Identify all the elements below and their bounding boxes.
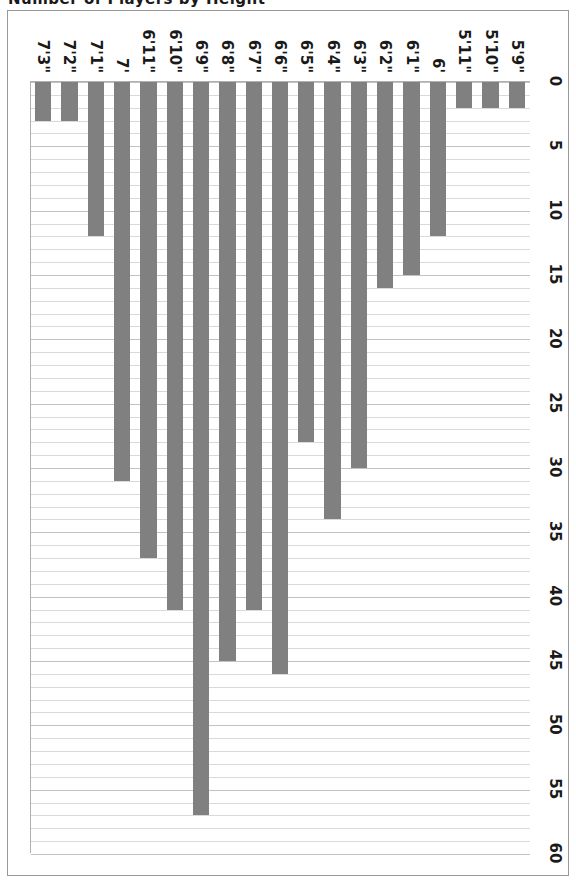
bar xyxy=(246,82,262,610)
value-tick-label: 5 xyxy=(546,140,564,150)
value-tick-label: 55 xyxy=(546,778,564,799)
category-tick-label: 6'11" xyxy=(139,29,157,73)
value-axis: 051015202530354045505560 xyxy=(530,81,568,853)
bar xyxy=(351,82,367,468)
category-axis: 5'9"5'10"5'11"6'6'1"6'2"6'3"6'4"6'5"6'6"… xyxy=(30,11,530,79)
value-tick-label: 0 xyxy=(546,76,564,86)
category-tick-label: 6'2" xyxy=(376,40,394,73)
category-tick-label: 6'1" xyxy=(403,40,421,73)
category-tick-label: 7'3" xyxy=(34,40,52,73)
bar xyxy=(219,82,235,661)
value-tick-label: 60 xyxy=(546,843,564,864)
plot-area xyxy=(30,81,530,853)
category-tick-label: 6'6" xyxy=(271,40,289,73)
category-tick-label: 7' xyxy=(113,58,131,73)
bar xyxy=(61,82,77,121)
category-tick-label: 6'8" xyxy=(218,40,236,73)
category-tick-label: 6'7" xyxy=(245,40,263,73)
bar xyxy=(140,82,156,558)
category-tick-label: 6'9" xyxy=(192,40,210,73)
bar-series xyxy=(31,82,530,853)
figure-frame: 051015202530354045505560 5'9"5'10"5'11"6… xyxy=(7,10,569,876)
bar xyxy=(509,82,525,108)
bar xyxy=(324,82,340,519)
bar xyxy=(377,82,393,288)
category-tick-label: 7'1" xyxy=(87,40,105,73)
bar xyxy=(114,82,130,481)
bar xyxy=(482,82,498,108)
value-tick-label: 45 xyxy=(546,650,564,671)
category-tick-label: 6'5" xyxy=(297,40,315,73)
bar xyxy=(456,82,472,108)
bar xyxy=(88,82,104,236)
bar xyxy=(298,82,314,442)
rotated-chart-wrapper: 051015202530354045505560 5'9"5'10"5'11"6… xyxy=(8,11,568,875)
value-tick-label: 50 xyxy=(546,714,564,735)
bar xyxy=(193,82,209,815)
value-tick-label: 25 xyxy=(546,392,564,413)
value-tick-label: 35 xyxy=(546,521,564,542)
bar xyxy=(167,82,183,610)
value-tick-label: 40 xyxy=(546,585,564,606)
clipped-title-strip: Number of Players by Height xyxy=(0,0,576,9)
value-tick-label: 20 xyxy=(546,328,564,349)
bar xyxy=(272,82,288,674)
category-tick-label: 7'2" xyxy=(60,40,78,73)
category-tick-label: 5'10" xyxy=(482,29,500,73)
page-title: Number of Players by Height xyxy=(8,0,265,8)
value-tick-label: 10 xyxy=(546,199,564,220)
category-tick-label: 5'11" xyxy=(455,29,473,73)
bar xyxy=(403,82,419,275)
category-tick-label: 6'10" xyxy=(166,29,184,73)
bar-chart: 051015202530354045505560 5'9"5'10"5'11"6… xyxy=(8,11,568,875)
bar xyxy=(430,82,446,236)
category-tick-label: 6' xyxy=(429,58,447,73)
gridline xyxy=(31,854,530,855)
category-tick-label: 5'9" xyxy=(508,40,526,73)
category-tick-label: 6'4" xyxy=(324,40,342,73)
category-tick-label: 6'3" xyxy=(350,40,368,73)
bar xyxy=(35,82,51,121)
value-tick-label: 15 xyxy=(546,264,564,285)
value-tick-label: 30 xyxy=(546,457,564,478)
chart-page: Number of Players by Height 051015202530… xyxy=(0,0,576,883)
